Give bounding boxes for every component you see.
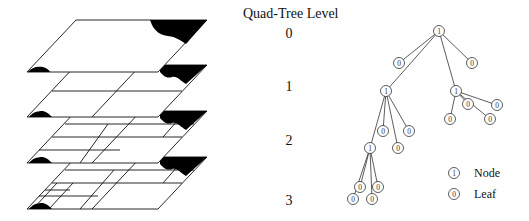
- tree-leaf-icon: 0: [467, 58, 478, 69]
- legend-leaf-icon: 0: [449, 189, 460, 200]
- legend-leaf-label: Leaf: [474, 187, 496, 202]
- svg-text:0: 0: [466, 100, 470, 109]
- level-2-label: 2: [279, 133, 299, 149]
- tree-leaf-icon: 0: [404, 126, 415, 137]
- layer-3-plane: [27, 157, 207, 209]
- layer-0-plane: [27, 20, 207, 72]
- quad-tree-level-title: Quad-Tree Level: [243, 6, 339, 22]
- tree-leaf-icon: 0: [485, 114, 496, 125]
- svg-text:0: 0: [470, 59, 474, 68]
- tree-edge: [386, 91, 398, 148]
- level-0-label: 0: [279, 26, 299, 42]
- layer-1-plane: [27, 65, 207, 117]
- tree-leaf-icon: 0: [463, 99, 474, 110]
- svg-text:1: 1: [452, 169, 456, 178]
- quadtree-diagram: 10011000000010000 10: [0, 0, 529, 221]
- tree-node-icon: 1: [365, 143, 376, 154]
- tree-leaf-icon: 0: [445, 114, 456, 125]
- tree-edge: [439, 31, 456, 91]
- svg-text:0: 0: [376, 183, 380, 192]
- tree-edge: [439, 31, 472, 63]
- svg-text:1: 1: [454, 87, 458, 96]
- level-3-label: 3: [279, 193, 299, 209]
- svg-text:0: 0: [351, 195, 355, 204]
- svg-text:0: 0: [407, 127, 411, 136]
- tree-node-icon: 1: [434, 26, 445, 37]
- svg-text:1: 1: [384, 87, 388, 96]
- tree-leaf-icon: 0: [394, 58, 405, 69]
- level-1-label: 1: [279, 79, 299, 95]
- svg-text:0: 0: [397, 59, 401, 68]
- svg-text:1: 1: [368, 144, 372, 153]
- tree-edge: [399, 31, 439, 63]
- svg-text:0: 0: [488, 115, 492, 124]
- svg-text:0: 0: [358, 183, 362, 192]
- tree-leaf-icon: 0: [373, 182, 384, 193]
- tree-leaf-icon: 0: [378, 126, 389, 137]
- tree-edge: [386, 91, 409, 131]
- tree-leaf-icon: 0: [492, 100, 503, 111]
- svg-text:0: 0: [448, 115, 452, 124]
- legend-node-icon: 1: [449, 168, 460, 179]
- svg-text:0: 0: [370, 195, 374, 204]
- svg-text:1: 1: [437, 27, 441, 36]
- svg-text:0: 0: [396, 144, 400, 153]
- tree-leaf-icon: 0: [367, 194, 378, 205]
- tree-leaf-icon: 0: [393, 143, 404, 154]
- tree-leaf-icon: 0: [355, 182, 366, 193]
- svg-text:0: 0: [495, 101, 499, 110]
- tree-leaf-icon: 0: [348, 194, 359, 205]
- legend: 10: [449, 168, 460, 200]
- tree-edge: [360, 148, 370, 187]
- layer-2-plane: [27, 111, 207, 163]
- tree-node-icon: 1: [381, 86, 392, 97]
- svg-text:0: 0: [452, 190, 456, 199]
- svg-text:0: 0: [381, 127, 385, 136]
- legend-node-label: Node: [474, 166, 500, 181]
- tree-node-icon: 1: [451, 86, 462, 97]
